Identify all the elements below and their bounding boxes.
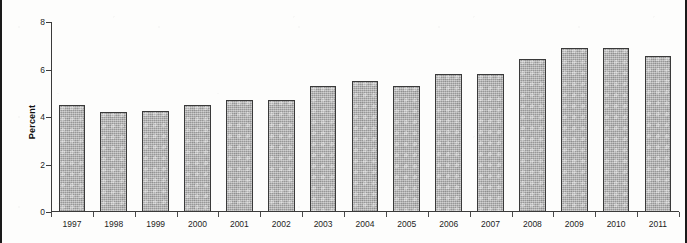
x-tick-mark xyxy=(470,212,471,217)
x-tick-label: 1999 xyxy=(135,219,177,229)
bar-slot xyxy=(386,22,428,212)
x-tick-mark xyxy=(679,212,680,217)
bar xyxy=(519,59,546,212)
bar xyxy=(435,74,462,212)
x-tick-mark xyxy=(386,212,387,217)
bar-slot xyxy=(428,22,470,212)
plot-area: 02468 xyxy=(51,22,679,212)
bar xyxy=(393,86,420,212)
y-tick-label: 4 xyxy=(25,112,45,122)
bar-chart-figure: Percent 02468 19971998199920002001200220… xyxy=(0,0,687,243)
x-tick-mark xyxy=(428,212,429,217)
bar xyxy=(352,81,379,212)
bar-slot xyxy=(177,22,219,212)
x-tick-label: 2009 xyxy=(553,219,595,229)
bar-slot xyxy=(218,22,260,212)
y-tick-label: 8 xyxy=(25,17,45,27)
x-tick-mark xyxy=(344,212,345,217)
x-tick-label: 2004 xyxy=(344,219,386,229)
x-tick-mark xyxy=(637,212,638,217)
bar xyxy=(561,48,588,212)
x-tick-mark xyxy=(260,212,261,217)
bar xyxy=(184,105,211,212)
bar-slot xyxy=(511,22,553,212)
bar-slot xyxy=(51,22,93,212)
bar xyxy=(477,74,504,212)
x-tick-mark xyxy=(177,212,178,217)
x-tick-label: 2001 xyxy=(218,219,260,229)
x-tick-label: 2007 xyxy=(470,219,512,229)
x-axis-tick-labels: 1997199819992000200120022003200420052006… xyxy=(51,219,679,229)
bar-slot xyxy=(637,22,679,212)
bar xyxy=(226,100,253,212)
bar xyxy=(59,105,86,212)
x-tick-label: 1998 xyxy=(93,219,135,229)
y-tick-label: 0 xyxy=(25,207,45,217)
bar xyxy=(310,86,337,212)
x-tick-label: 2000 xyxy=(177,219,219,229)
x-tick-label: 2010 xyxy=(595,219,637,229)
x-tick-mark xyxy=(512,212,513,217)
x-tick-mark xyxy=(218,212,219,217)
bar xyxy=(603,48,630,212)
bar xyxy=(645,56,672,212)
x-axis-ticks xyxy=(51,212,679,218)
x-tick-mark xyxy=(135,212,136,217)
x-tick-label: 2002 xyxy=(260,219,302,229)
y-tick-label: 6 xyxy=(25,65,45,75)
x-tick-label: 2005 xyxy=(386,219,428,229)
y-tick-label: 2 xyxy=(25,160,45,170)
x-tick-mark xyxy=(595,212,596,217)
bar-series xyxy=(51,22,679,212)
x-tick-mark xyxy=(553,212,554,217)
x-tick-label: 2006 xyxy=(428,219,470,229)
bar-slot xyxy=(595,22,637,212)
x-tick-label: 2008 xyxy=(511,219,553,229)
bar-slot xyxy=(344,22,386,212)
bar-slot xyxy=(302,22,344,212)
bar-slot xyxy=(470,22,512,212)
bar-slot xyxy=(93,22,135,212)
x-tick-label: 2003 xyxy=(302,219,344,229)
x-tick-mark xyxy=(302,212,303,217)
x-tick-label: 1997 xyxy=(51,219,93,229)
bar-slot xyxy=(135,22,177,212)
bar-slot xyxy=(553,22,595,212)
bar xyxy=(142,111,169,212)
x-tick-mark xyxy=(93,212,94,217)
bar xyxy=(100,112,127,212)
x-tick-label: 2011 xyxy=(637,219,679,229)
bar-slot xyxy=(260,22,302,212)
x-tick-mark xyxy=(51,212,52,217)
bar xyxy=(268,100,295,212)
